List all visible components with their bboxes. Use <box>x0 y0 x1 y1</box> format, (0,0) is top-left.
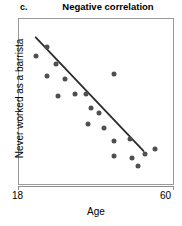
trend-line <box>36 37 144 151</box>
scatter-point <box>56 93 61 98</box>
scatter-point <box>89 105 94 110</box>
scatter-point <box>152 147 157 152</box>
scatter-point <box>72 92 77 97</box>
x-axis-tick-label-max: 60 <box>160 190 171 201</box>
x-axis-tick-label-min: 18 <box>12 190 23 201</box>
trend-line-svg <box>19 19 175 186</box>
y-axis-label: Never worked as a barrista <box>14 14 25 184</box>
scatter-point <box>111 138 116 143</box>
scatter-point <box>130 155 135 160</box>
x-axis-line <box>18 186 174 187</box>
scatter-point <box>85 122 90 127</box>
scatter-point <box>63 77 68 82</box>
scatter-point <box>128 137 133 142</box>
scatter-point <box>83 92 88 97</box>
scatter-point <box>96 110 101 115</box>
scatter-point <box>135 163 140 168</box>
plot-frame <box>18 18 174 185</box>
figure-panel-c: c. Negative correlation 18 60 Age Never … <box>0 0 182 226</box>
scatter-plot-area <box>19 19 173 184</box>
panel-letter: c. <box>20 2 28 12</box>
scatter-point <box>33 53 38 58</box>
scatter-point <box>111 72 116 77</box>
x-axis-label: Age <box>18 206 174 217</box>
scatter-point <box>111 153 116 158</box>
chart-title: Negative correlation <box>46 1 170 12</box>
scatter-point <box>44 45 49 50</box>
scatter-point <box>102 125 107 130</box>
scatter-point <box>143 152 148 157</box>
scatter-point <box>54 62 59 67</box>
x-axis-tick-max <box>173 186 174 190</box>
scatter-point <box>44 73 49 78</box>
